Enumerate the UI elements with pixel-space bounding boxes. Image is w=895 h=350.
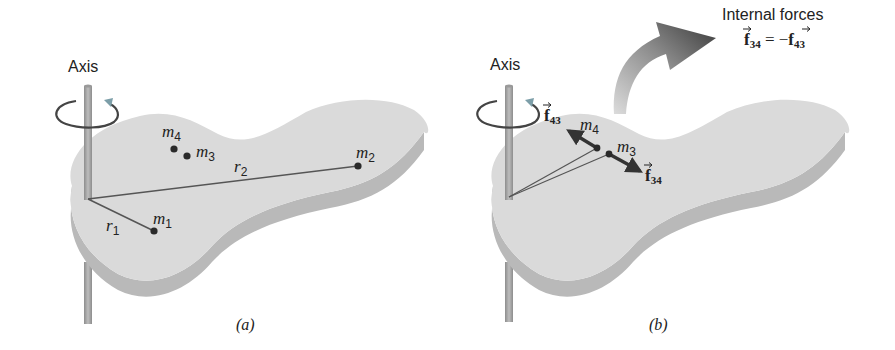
panel-a: Axis m1 m2 m3 m4 r1 r2 (a) — [56, 58, 428, 334]
mass-dot-m2 — [354, 162, 361, 169]
mass-dot-m3 — [606, 151, 613, 158]
axis-label: Axis — [68, 58, 98, 75]
mass-dot-m3 — [183, 152, 190, 159]
mass-dot-m4 — [170, 145, 177, 152]
axis-label: Axis — [490, 56, 520, 73]
axis-rod-upper — [84, 86, 92, 200]
callout-title: Internal forces — [722, 6, 823, 23]
callout-arrow-icon — [614, 22, 716, 114]
axis-rod-lower — [505, 262, 513, 322]
svg-text:f34 = −f43: f34 = −f43 — [744, 30, 806, 50]
panel-b: Axis m4 m3 f43 f34 Internal forces f34 =… — [477, 6, 849, 334]
label-f43: f43 — [543, 103, 561, 127]
mass-dot-m1 — [150, 227, 157, 234]
svg-text:f43: f43 — [544, 106, 561, 126]
caption-b: (b) — [649, 316, 668, 334]
caption-a: (a) — [236, 316, 255, 334]
axis-rod-upper — [505, 86, 513, 200]
mass-dot-m4 — [594, 145, 601, 152]
axis-rod-lower — [84, 262, 92, 324]
callout-equation: f34 = −f43 — [743, 27, 810, 51]
rotational-inertia-diagram: Axis m1 m2 m3 m4 r1 r2 (a) Axis — [0, 0, 895, 350]
